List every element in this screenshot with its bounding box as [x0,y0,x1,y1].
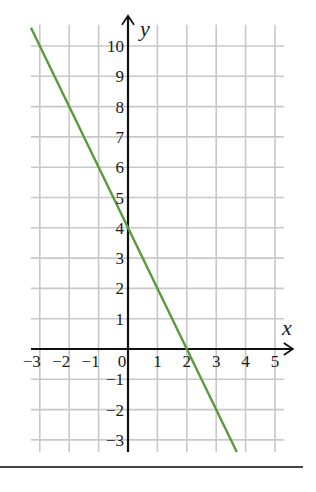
line-series [31,28,237,452]
y-tick-label: 1 [116,310,125,329]
bottom-divider [0,466,303,468]
x-tick-label: −1 [82,352,100,371]
x-tick-label: 2 [183,352,192,371]
y-tick-label: 5 [116,189,125,208]
y-tick-label: −1 [106,370,124,389]
x-tick-label: 1 [153,352,162,371]
y-tick-label: −2 [106,401,124,420]
y-tick-label: 9 [116,67,125,86]
x-tick-label: 0 [118,352,127,371]
y-tick-label: 2 [116,279,125,298]
axes [31,16,293,452]
line-graph: −3−2−1012345−3−2−112345678910 x y [0,0,316,492]
tick-labels: −3−2−1012345−3−2−112345678910 [23,37,279,450]
y-tick-label: 6 [116,158,125,177]
y-tick-label: 7 [116,128,125,147]
x-tick-label: 4 [241,352,250,371]
x-tick-label: −2 [52,352,70,371]
x-axis-label: x [281,315,292,340]
grid-lines [31,25,284,452]
y-tick-label: 10 [107,37,124,56]
y-tick-label: 8 [116,98,125,117]
y-tick-label: 3 [116,249,125,268]
y-axis-label: y [138,16,150,41]
y-tick-label: 4 [116,219,125,238]
x-tick-label: −3 [23,352,41,371]
x-tick-label: 5 [271,352,280,371]
data-series [31,28,237,452]
x-tick-label: 3 [212,352,221,371]
y-tick-label: −3 [106,431,124,450]
